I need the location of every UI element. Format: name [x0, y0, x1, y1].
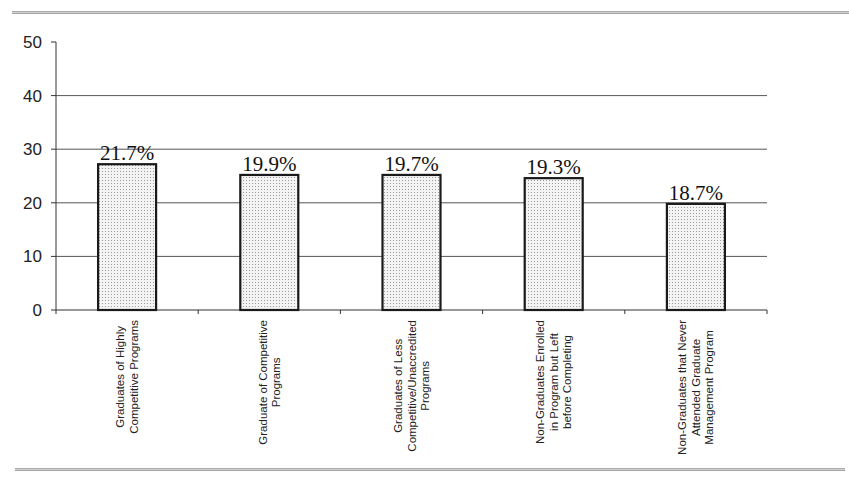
bar: [383, 175, 441, 310]
bar: [240, 175, 298, 310]
bar: [667, 204, 725, 310]
category-label-line: Management Program: [703, 330, 715, 444]
category-label-line: Graduate of Competitive: [257, 320, 269, 445]
y-axis: 01020304050: [23, 33, 56, 320]
y-tick-label: 10: [23, 247, 42, 266]
category-labels: Graduates of HighlyCompetitive ProgramsG…: [114, 320, 715, 455]
y-tick-label: 20: [23, 194, 42, 213]
category-label-line: Non-Graduates Enrolled: [534, 320, 546, 444]
data-label: 19.7%: [384, 152, 438, 176]
data-label: 21.7%: [100, 141, 154, 165]
category-label: Graduates of HighlyCompetitive Programs: [114, 320, 140, 434]
category-label-line: before Completing: [561, 335, 573, 429]
category-label: Non-Graduates that NeverAttended Graduat…: [676, 320, 715, 455]
bar-chart: 01020304050 21.7%19.9%19.7%19.3%18.7% Gr…: [0, 0, 849, 483]
category-label: Graduate of CompetitivePrograms: [257, 320, 283, 445]
bar: [525, 178, 583, 310]
y-tick-label: 40: [23, 87, 42, 106]
data-label: 19.9%: [242, 152, 296, 176]
category-label: Non-Graduates Enrolledin Program but Lef…: [534, 320, 573, 444]
category-label-line: Attended Graduate: [690, 339, 702, 436]
y-tick-label: 30: [23, 140, 42, 159]
data-label: 19.3%: [527, 155, 581, 179]
category-label: Graduates of LessCompetitive/Unaccredite…: [392, 320, 431, 452]
category-label-line: Programs: [270, 357, 282, 407]
bar: [98, 164, 156, 310]
category-label-line: Non-Graduates that Never: [676, 320, 688, 455]
category-label-line: Competitive Programs: [128, 320, 140, 434]
bars: [98, 164, 725, 310]
category-label-line: in Program but Left: [548, 332, 560, 431]
category-label-line: Graduates of Highly: [114, 326, 126, 428]
category-label-line: Programs: [419, 361, 431, 411]
y-tick-label: 50: [23, 33, 42, 52]
category-label-line: Graduates of Less: [392, 339, 404, 433]
data-label: 18.7%: [669, 181, 723, 205]
category-label-line: Competitive/Unaccredited: [406, 320, 418, 452]
y-tick-label: 0: [33, 301, 42, 320]
